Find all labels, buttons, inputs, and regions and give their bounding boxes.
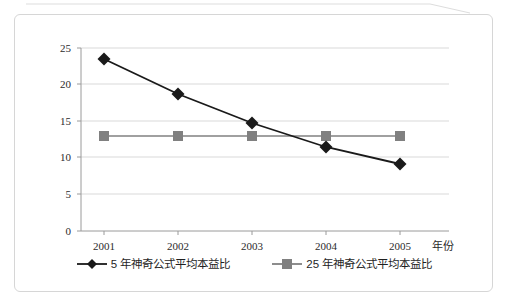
- data-point-marker: [395, 131, 405, 141]
- y-tick-label-10: 10: [43, 152, 71, 163]
- data-point-marker: [246, 117, 259, 130]
- plot-area: 25 20 15 10 5 0 2001 2002 2003 2004 2005…: [15, 15, 494, 293]
- data-point-marker: [320, 141, 333, 154]
- square-marker-icon: [272, 258, 302, 270]
- data-point-marker: [394, 158, 407, 171]
- y-tick-label-20: 20: [43, 79, 71, 90]
- legend-label-25y: 25 年神奇公式平均本益比: [306, 258, 432, 270]
- chart-legend: 5 年神奇公式平均本益比 25 年神奇公式平均本益比: [15, 258, 494, 270]
- y-tick-label-15: 15: [43, 116, 71, 127]
- gridlines: [81, 48, 449, 194]
- x-tick-label-2001: 2001: [81, 241, 127, 252]
- chart-container: 25 20 15 10 5 0 2001 2002 2003 2004 2005…: [14, 14, 493, 292]
- data-point-marker: [99, 131, 109, 141]
- diamond-marker-icon: [77, 258, 107, 270]
- y-tick-label-5: 5: [43, 189, 71, 200]
- legend-item-5y[interactable]: 5 年神奇公式平均本益比: [77, 258, 231, 270]
- series-5y-line: [98, 53, 407, 171]
- data-point-marker: [321, 131, 331, 141]
- x-axis-title: 年份: [432, 241, 454, 252]
- y-tick-label-25: 25: [43, 43, 71, 54]
- data-point-marker: [173, 131, 183, 141]
- data-point-marker: [247, 131, 257, 141]
- data-point-marker: [172, 88, 185, 101]
- series-25y-line: [99, 131, 405, 141]
- y-axis-ticks: [77, 48, 81, 231]
- x-tick-label-2002: 2002: [155, 241, 201, 252]
- x-tick-label-2004: 2004: [303, 241, 349, 252]
- data-point-marker: [98, 53, 111, 66]
- legend-label-5y: 5 年神奇公式平均本益比: [111, 258, 231, 270]
- x-axis-ticks: [104, 231, 400, 235]
- scan-edge-artifact: [0, 0, 506, 14]
- legend-item-25y[interactable]: 25 年神奇公式平均本益比: [272, 258, 432, 270]
- x-tick-label-2005: 2005: [377, 241, 423, 252]
- y-tick-label-0: 0: [43, 226, 71, 237]
- chart-canvas: [15, 15, 494, 258]
- x-tick-label-2003: 2003: [229, 241, 275, 252]
